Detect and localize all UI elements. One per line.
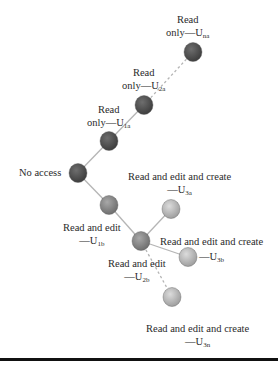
label-u3b-line2: —U3b — [199, 250, 224, 263]
node-u1a — [100, 132, 118, 151]
label-u1a-text: only—U — [87, 117, 124, 128]
label-u3n-line1: Read and edit and create — [146, 322, 249, 335]
label-u1a-line2: only—U1a — [87, 116, 130, 129]
label-u2b-line2: —U2b — [108, 270, 166, 283]
node-una — [184, 43, 202, 62]
node-u2a — [135, 96, 153, 115]
label-u1b: Read and edit —U1b — [63, 221, 121, 247]
label-u3a-sub: 3a — [185, 189, 192, 197]
label-no-access: No access — [19, 166, 61, 179]
label-una-sub: na — [203, 32, 210, 40]
label-una: Read only—Una — [166, 13, 209, 39]
label-u3a-text: —U — [167, 184, 185, 195]
label-una-line2: only—Una — [166, 26, 209, 39]
label-una-text: only—U — [166, 27, 203, 38]
label-u1a-line1: Read — [87, 103, 130, 116]
label-u3a-line1: Read and edit and create — [128, 170, 231, 183]
label-u1b-line1: Read and edit — [63, 221, 121, 234]
label-u2a: Read only—U2a — [122, 66, 165, 92]
label-u2a-line2: only—U2a — [122, 79, 165, 92]
label-u1b-text: —U — [79, 235, 97, 246]
label-u1a-sub: 1a — [124, 122, 131, 130]
node-u3a — [162, 200, 180, 219]
label-una-line1: Read — [166, 13, 209, 26]
label-u2a-line1: Read — [122, 66, 165, 79]
node-u1b — [100, 196, 118, 215]
label-u3a: Read and edit and create —U3a — [128, 170, 231, 196]
label-u2b-text: —U — [124, 271, 142, 282]
label-u2b-line1: Read and edit — [108, 257, 166, 270]
label-u1a: Read only—U1a — [87, 103, 130, 129]
label-u1b-line2: —U1b — [63, 234, 121, 247]
node-u3n — [163, 288, 181, 307]
label-u2a-text: only—U — [122, 80, 159, 91]
label-u3n-sub: 3n — [203, 341, 210, 349]
node-u3b — [179, 248, 197, 267]
label-u3a-line2: —U3a — [128, 183, 231, 196]
label-u3b-sub: 3b — [217, 256, 224, 264]
bottom-rule — [0, 358, 278, 361]
label-u3n-text: —U — [185, 336, 203, 347]
label-u2b: Read and edit —U2b — [108, 257, 166, 283]
label-u3b-line2-wrap: —U3b — [199, 250, 224, 263]
node-u2b — [132, 232, 150, 251]
label-u3b-text: —U — [199, 251, 217, 262]
label-u2b-sub: 2b — [142, 276, 149, 284]
label-u1b-sub: 1b — [97, 240, 104, 248]
node-no-access — [69, 164, 87, 183]
label-no-access-text: No access — [19, 166, 61, 179]
label-u3b-line1-wrap: Read and edit and create — [160, 235, 263, 248]
label-u3n: Read and edit and create —U3n — [146, 322, 249, 348]
label-u2a-sub: 2a — [159, 85, 166, 93]
label-u3n-line2: —U3n — [146, 335, 249, 348]
label-u3b-line1: Read and edit and create — [160, 235, 263, 248]
